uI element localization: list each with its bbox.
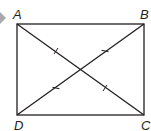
vertex-label-c: C: [141, 118, 151, 131]
bullet-marker-icon: [0, 12, 6, 24]
vertex-label-d: D: [14, 118, 23, 131]
vertex-label-a: A: [12, 7, 22, 22]
vertex-label-b: B: [140, 7, 149, 22]
rectangle-diagram: A B D C: [0, 0, 151, 131]
